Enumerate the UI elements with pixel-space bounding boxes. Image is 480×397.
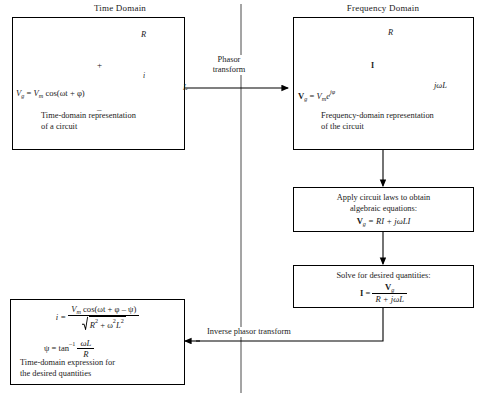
box-solve-quantities[interactable]: Solve for desired quantities: I = Vg R +… <box>293 265 474 308</box>
caption-frequency-domain-line1: Frequency-domain representation <box>321 111 434 122</box>
eq-phasor-v-subscript: g <box>304 95 307 102</box>
caption-time-domain-line2: of a circuit <box>41 122 77 133</box>
inverse-caption-line2: the desired quantities <box>20 369 91 380</box>
inverse-eq-fraction: Vm cos(ωt + φ – ψ) R2 + ω2L2 <box>68 304 139 330</box>
equation-time-source: Vg = Vm cos(ωt + φ) <box>16 88 85 99</box>
label-inductor-frequency: jωL <box>434 81 447 90</box>
inverse-equation-phase: ψ = tan–1 ωL R <box>44 339 94 360</box>
den-r-exp: 2 <box>95 317 98 324</box>
apply-eq-rhs: = RI + jωLI <box>368 216 410 226</box>
sqrt-tick-icon <box>82 316 88 330</box>
apply-laws-line2: algebraic equations: <box>294 204 473 215</box>
solve-eq-denominator: R + jωL <box>372 293 407 304</box>
caption-frequency-domain-line2: of the circuit <box>321 122 364 133</box>
label-phasor-transform: Phasor transform <box>196 55 262 75</box>
box-inverse-result[interactable]: i = Vm cos(ωt + φ – ψ) R2 + ω2L2 ψ = tan… <box>10 299 185 385</box>
label-resistor-time: R <box>141 30 146 39</box>
label-inductor-time: L <box>183 83 188 92</box>
inverse-caption-line1: Time-domain expression for <box>20 358 115 369</box>
solve-eq-numerator: Vg <box>372 282 407 293</box>
phase-eq-lhs: ψ = tan <box>44 343 69 353</box>
inverse-eq-lhs: i = <box>56 312 66 322</box>
eq-v-subscript: g <box>21 92 24 99</box>
caption-time-domain-line1: Time-domain representation <box>41 111 136 122</box>
label-resistor-frequency: R <box>388 28 393 37</box>
apply-eq-v-sub: g <box>363 220 366 227</box>
den-omega: + ω <box>100 320 113 330</box>
inverse-num-sub: m <box>76 308 80 315</box>
inverse-eq-denominator: R2 + ω2L2 <box>68 315 139 330</box>
title-time-domain: Time Domain <box>40 3 200 13</box>
eq-cos-term: cos(ωt + φ) <box>45 88 84 98</box>
apply-laws-line1: Apply circuit laws to obtain <box>294 193 473 204</box>
phase-eq-exponent: –1 <box>69 340 75 347</box>
solve-eq-lhs: I = <box>360 288 370 298</box>
eq-phasor-exponent: jφ <box>330 88 335 95</box>
diagram-canvas: Time Domain Frequency Domain Time-domain… <box>0 0 480 397</box>
label-phasor-transform-line2: transform <box>198 65 260 75</box>
title-frequency-domain: Frequency Domain <box>303 3 463 13</box>
phase-eq-numerator: ωL <box>77 338 94 348</box>
eq-vm-subscript: m <box>39 92 43 99</box>
equation-frequency-source: Vg = Vmejφ <box>298 88 335 102</box>
box-apply-circuit-laws[interactable]: Apply circuit laws to obtain algebraic e… <box>293 187 474 232</box>
eq-equals: = <box>27 88 32 98</box>
solve-line1: Solve for desired quantities: <box>294 271 473 282</box>
den-l-exp: 2 <box>121 317 124 324</box>
label-polarity-plus-time: + <box>97 60 102 70</box>
inverse-num-cos: cos(ωt + φ – ψ) <box>83 304 136 314</box>
label-polarity-minus-time: – <box>97 104 102 114</box>
sqrt-radicand: R2 + ω2L2 <box>89 316 126 330</box>
phase-eq-fraction: ωL R <box>77 338 94 359</box>
solve-eq-fraction: Vg R + jωL <box>372 282 407 304</box>
label-inverse-phasor-transform: Inverse phasor transform <box>205 327 293 337</box>
inverse-eq-numerator: Vm cos(ωt + φ – ψ) <box>68 304 139 315</box>
label-current-frequency: I <box>371 61 374 70</box>
solve-equation: I = Vg R + jωL <box>294 283 473 305</box>
solve-num-sub: g <box>391 286 394 293</box>
apply-laws-equation: Vg = RI + jωLI <box>294 216 473 227</box>
eq-phasor-equals: = <box>309 91 314 101</box>
label-phasor-transform-line1: Phasor <box>198 55 260 65</box>
sqrt-symbol: R2 + ω2L2 <box>82 316 126 330</box>
label-current-time: i <box>143 71 145 80</box>
inverse-equation-current: i = Vm cos(ωt + φ – ψ) R2 + ω2L2 <box>11 305 184 331</box>
box-time-domain-circuit[interactable]: Time-domain representation of a circuit <box>12 17 185 150</box>
